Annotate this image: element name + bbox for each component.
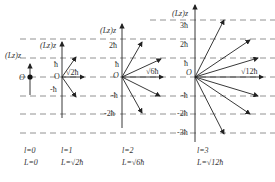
magnitude-label: √2ħ [66,68,78,77]
magnitude-label: √12ħ [241,67,257,76]
axis-label: (Lz)z [100,26,117,35]
angular-momentum-diagram: (Lz)z O (Lz)z ħ -ħ O √2ħ (Lz)z 2ħ ħ -ħ -… [0,0,275,182]
axis-label: (Lz)z [40,41,57,50]
panel-l2: (Lz)z 2ħ ħ -ħ -2ħ O √6ħ [100,24,163,128]
tick-label: -2ħ [104,109,115,118]
panel-l0: (Lz)z O [5,51,33,95]
tick-label: ħ [54,60,58,69]
tick-label: 2ħ [180,40,188,49]
origin-dot [27,74,32,79]
tick-label: -ħ [181,91,188,100]
panel-l3: (Lz)z 3ħ 2ħ ħ -ħ -2ħ -3ħ O √12ħ [172,5,263,142]
origin-label: O [113,71,119,80]
tick-label: ħ [115,60,119,69]
tick-label: -ħ [111,91,118,100]
tick-label: -ħ [50,85,57,94]
tick-label: 3ħ [180,21,188,30]
origin-label: O [186,68,192,77]
origin-label: O [54,72,60,81]
l-label: l=1 [61,146,73,155]
L-label: L=√12ħ [196,158,223,167]
quantum-number-labels: l=0 L=0 l=1 L=√2ħ l=2 L=√6ħ l=3 L=√12ħ [23,146,223,167]
axis-label: (Lz)z [172,9,189,18]
L-label: L=√6ħ [121,158,144,167]
origin-label: O [19,73,25,82]
L-label: L=√2ħ [60,158,83,167]
axis-label: (Lz)z [5,51,22,60]
L-label: L=0 [23,158,38,167]
tick-label: -3ħ [177,128,188,137]
tick-label: 2ħ [109,41,117,50]
tick-label: -2ħ [177,109,188,118]
tick-label: ħ [184,59,188,68]
l-label: l=2 [122,146,134,155]
magnitude-label: √6ħ [146,67,158,76]
panel-l1: (Lz)z ħ -ħ O √2ħ [40,41,84,118]
l-label: l=0 [24,146,36,155]
l-label: l=3 [197,146,209,155]
